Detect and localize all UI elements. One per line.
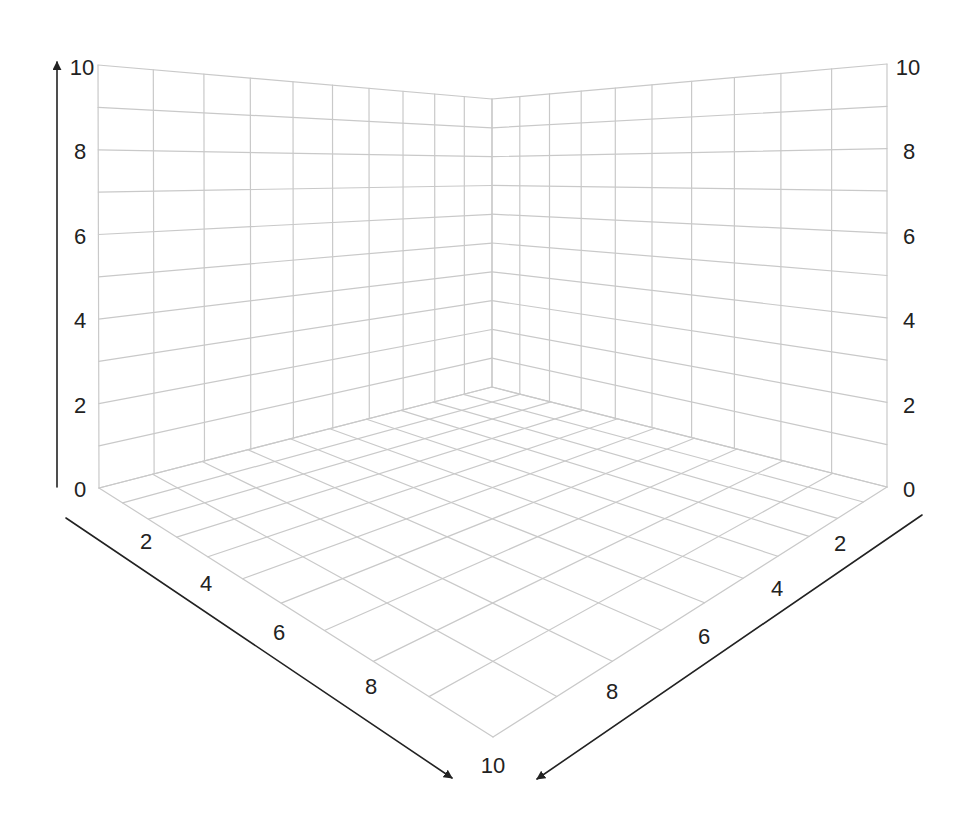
left-depth-axis-arrow [66,518,452,778]
left-vertical-tick-label: 8 [74,139,86,164]
right-depth-tick-label: 6 [698,624,710,649]
left-wall-grid-line [153,70,154,474]
left-vertical-tick-label: 4 [74,308,86,333]
right-wall-grid-line [492,243,887,276]
left-depth-tick-label: 2 [140,529,152,554]
left-vertical-tick-label: 6 [74,224,86,249]
left-wall-grid-line [250,78,251,449]
right-vertical-tick-label: 0 [903,477,915,502]
left-depth-tick-label: 10 [481,753,505,778]
axis-arrows [57,62,922,779]
right-wall-grid [492,64,887,487]
left-wall-grid [98,65,492,488]
left-wall-grid-line [98,150,492,157]
right-vertical-tick-label: 8 [903,139,915,164]
left-depth-tick-label: 4 [200,571,212,596]
right-depth-tick-label: 4 [771,576,783,601]
right-wall-grid-line [492,272,887,318]
right-vertical-tick-label: 4 [903,308,915,333]
floor-grid-line [177,410,584,537]
floor-grid-line [330,429,743,579]
right-depth-tick-label: 8 [606,679,618,704]
left-wall-grid-line [98,186,492,193]
right-vertical-tick-label: 2 [903,393,915,418]
floor-grid-line [493,487,887,737]
right-wall-grid-line [492,301,887,361]
axis-labels: 002244668810102468102468 [70,55,920,778]
left-vertical-tick-label: 0 [74,477,86,502]
left-wall-grid-line [98,65,492,99]
floor-grid-line [367,419,778,556]
right-wall-grid-line [492,214,887,233]
right-depth-axis-arrow [537,515,922,779]
floor-grid-line [99,488,493,737]
3d-grid-diagram: 002244668810102468102468 [0,0,972,830]
right-wall-grid-line [492,64,887,99]
floor-grid [99,387,887,737]
left-wall-grid-line [98,107,492,127]
left-wall-grid-line [98,65,99,488]
floor-grid-line [243,428,655,579]
right-vertical-tick-label: 10 [896,55,920,80]
left-vertical-tick-label: 2 [74,393,86,418]
left-wall-grid-line [99,272,492,319]
left-depth-tick-label: 6 [273,620,285,645]
diagram-canvas: 002244668810102468102468 [0,0,972,830]
right-wall-grid-line [492,185,887,191]
left-wall-grid-line [99,243,493,277]
left-vertical-tick-label: 10 [70,55,94,80]
right-vertical-tick-label: 6 [903,224,915,249]
right-wall-grid-line [492,149,887,157]
left-wall-grid-line [99,301,492,362]
left-wall-grid-line [98,214,492,234]
left-depth-tick-label: 8 [365,674,377,699]
right-wall-grid-line [492,329,887,402]
left-wall-grid-line [99,330,492,404]
right-wall-grid-line [492,106,887,128]
floor-grid-line [373,461,783,662]
left-wall-grid-line [204,74,205,461]
right-depth-tick-label: 2 [834,531,846,556]
floor-grid-line [202,462,612,662]
